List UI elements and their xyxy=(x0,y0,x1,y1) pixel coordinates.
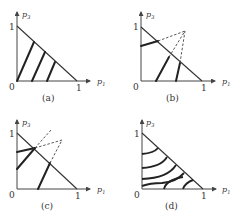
panel-c: p3 p1 1 0 1 (c) xyxy=(9,118,105,211)
dashed-extension-3 xyxy=(180,31,185,63)
x-axis-label: p1 xyxy=(97,77,105,87)
indifference-line-3 xyxy=(176,63,180,81)
indifference-line-3 xyxy=(47,62,55,81)
panel-caption: (d) xyxy=(165,201,178,211)
hypotenuse xyxy=(141,27,202,81)
x-axis-label: p1 xyxy=(222,185,230,195)
y-axis-label: p3 xyxy=(146,118,154,128)
y-tick-1: 1 xyxy=(9,129,15,139)
origin-label: 0 xyxy=(134,190,140,200)
indifference-curve-5 xyxy=(164,177,183,189)
origin-label: 0 xyxy=(9,82,15,92)
origin-label: 0 xyxy=(133,82,139,92)
y-tick-1: 1 xyxy=(134,129,140,139)
indifference-curve-1 xyxy=(142,148,158,154)
dashed-extension-1 xyxy=(35,130,51,148)
x-tick-1: 1 xyxy=(201,83,207,93)
x-axis-label: p1 xyxy=(97,185,105,195)
y-axis-label: p3 xyxy=(146,10,154,20)
x-tick-1: 1 xyxy=(75,191,81,201)
hypotenuse xyxy=(17,133,77,189)
panel-caption: (a) xyxy=(42,93,54,103)
indifference-curve-2 xyxy=(142,157,167,168)
indifference-line-2 xyxy=(156,57,169,81)
panel-caption: (b) xyxy=(166,93,179,103)
y-axis-label: p3 xyxy=(22,10,30,20)
panel-b: p3 p1 1 0 1 (b) xyxy=(133,10,230,103)
x-axis-label: p1 xyxy=(222,77,230,87)
panel-a: p3 p1 1 0 1 (a) xyxy=(9,10,105,103)
y-axis-label: p3 xyxy=(22,118,30,128)
figure-canvas: p3 p1 1 0 1 (a) p3 p1 1 0 1 (b) p3 p1 xyxy=(0,0,237,219)
indifference-line-2 xyxy=(32,52,45,81)
origin-label: 0 xyxy=(9,190,15,200)
indifference-curve-6 xyxy=(183,180,193,189)
y-tick-1: 1 xyxy=(133,22,139,32)
dashed-extension-1 xyxy=(158,31,185,41)
y-tick-1: 1 xyxy=(9,22,15,32)
panel-caption: (c) xyxy=(41,201,53,211)
panel-d: p3 p1 1 0 1 (d) xyxy=(134,118,230,211)
indifference-line-1 xyxy=(141,41,158,46)
indifference-line-3 xyxy=(38,163,50,189)
x-tick-1: 1 xyxy=(201,191,207,201)
x-tick-1: 1 xyxy=(76,83,82,93)
hypotenuse xyxy=(17,26,77,81)
indifference-line-1 xyxy=(17,42,34,81)
